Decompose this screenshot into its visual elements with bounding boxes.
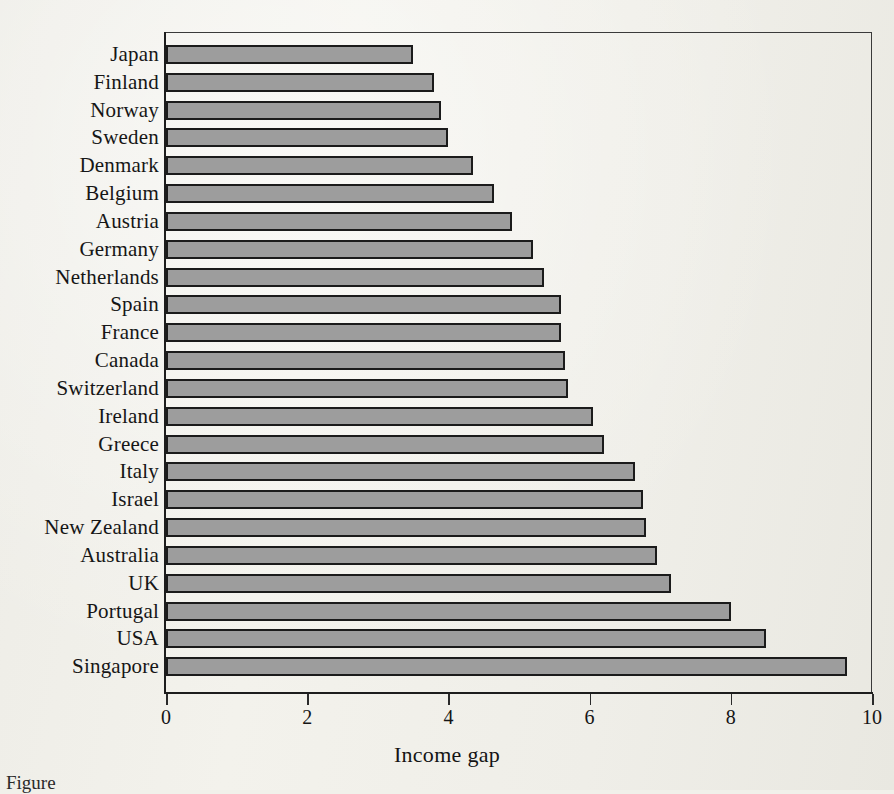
x-axis-title: Income gap <box>0 742 894 768</box>
bar-row: Italy <box>166 460 872 489</box>
x-axis-tick-label: 8 <box>726 706 736 728</box>
x-axis-tick-label: 2 <box>302 706 312 728</box>
x-axis-tick-label: 0 <box>161 706 171 728</box>
bar-row: France <box>166 321 872 350</box>
bar-category-label: Denmark <box>79 153 159 177</box>
x-axis-tick <box>590 694 592 705</box>
x-axis-tick <box>731 694 733 705</box>
bar <box>166 574 671 593</box>
bar-category-label: Netherlands <box>55 265 159 289</box>
bar-row: Japan <box>166 43 872 72</box>
bar-row: Singapore <box>166 655 872 684</box>
bar-row: Australia <box>166 544 872 573</box>
bar <box>166 629 766 648</box>
bar <box>166 295 561 314</box>
bar <box>166 490 643 509</box>
x-axis-tick <box>166 694 168 705</box>
bar <box>166 407 593 426</box>
bar-row: UK <box>166 572 872 601</box>
bars-container: JapanFinlandNorwaySwedenDenmarkBelgiumAu… <box>166 43 872 683</box>
bar <box>166 657 847 676</box>
bar <box>166 268 544 287</box>
bar-category-label: Greece <box>98 432 159 456</box>
bar-category-label: Israel <box>111 487 159 511</box>
bar-category-label: Austria <box>96 209 159 233</box>
bar <box>166 602 731 621</box>
bar <box>166 45 413 64</box>
x-axis-tick <box>307 694 309 705</box>
bar-category-label: UK <box>128 571 159 595</box>
bar-row: Belgium <box>166 182 872 211</box>
bar <box>166 184 494 203</box>
bar-category-label: Australia <box>80 543 159 567</box>
x-axis-tick-label: 4 <box>443 706 453 728</box>
bar-category-label: Norway <box>90 98 159 122</box>
bar <box>166 73 434 92</box>
bar-row: Spain <box>166 293 872 322</box>
bar <box>166 323 561 342</box>
bar-row: Netherlands <box>166 266 872 295</box>
bar <box>166 546 657 565</box>
bar-category-label: Italy <box>120 459 159 483</box>
bar-row: Switzerland <box>166 377 872 406</box>
bar-row: Germany <box>166 238 872 267</box>
bar <box>166 379 568 398</box>
x-axis-tick <box>872 694 874 705</box>
bar-row: Israel <box>166 488 872 517</box>
bar <box>166 518 646 537</box>
bar-category-label: Portugal <box>86 599 159 623</box>
bar-row: Denmark <box>166 154 872 183</box>
bar-row: Portugal <box>166 600 872 629</box>
bar-row: Greece <box>166 433 872 462</box>
bar-category-label: Finland <box>93 70 159 94</box>
bar-row: Norway <box>166 99 872 128</box>
bar-category-label: Japan <box>110 42 159 66</box>
bar-category-label: France <box>101 320 159 344</box>
bar <box>166 156 473 175</box>
x-axis-tick-label: 6 <box>585 706 595 728</box>
bar-category-label: Belgium <box>85 181 159 205</box>
x-axis-tick <box>448 694 450 705</box>
bar <box>166 128 448 147</box>
x-axis-tick-label: 10 <box>862 706 882 728</box>
bar-row: Canada <box>166 349 872 378</box>
x-axis-ticks: 0246810 <box>166 694 872 708</box>
bar <box>166 435 604 454</box>
bar <box>166 351 565 370</box>
bar-category-label: Sweden <box>91 125 159 149</box>
bar-category-label: Switzerland <box>56 376 159 400</box>
bar-row: Ireland <box>166 405 872 434</box>
figure-caption: Figure <box>6 772 56 794</box>
bar-category-label: Canada <box>95 348 159 372</box>
bar <box>166 462 635 481</box>
bar-row: Austria <box>166 210 872 239</box>
bar-row: Finland <box>166 71 872 100</box>
bar-category-label: New Zealand <box>44 515 159 539</box>
bar-row: Sweden <box>166 126 872 155</box>
bar-category-label: Spain <box>110 292 159 316</box>
bar <box>166 101 441 120</box>
bar-row: New Zealand <box>166 516 872 545</box>
bar <box>166 240 533 259</box>
bar-row: USA <box>166 627 872 656</box>
bar-category-label: Ireland <box>98 404 159 428</box>
bar-category-label: Singapore <box>72 654 159 678</box>
bar-category-label: Germany <box>79 237 159 261</box>
bar <box>166 212 512 231</box>
bar-category-label: USA <box>116 626 159 650</box>
